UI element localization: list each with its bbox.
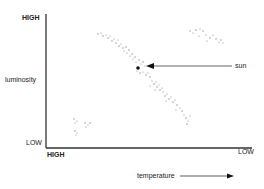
giant-stars — [189, 28, 223, 43]
y-axis-low-label: LOW — [26, 139, 42, 147]
sun-marker — [136, 66, 140, 70]
temperature-arrow-head — [227, 174, 234, 179]
y-axis-label: luminosity — [5, 76, 36, 84]
white-dwarf-stars — [73, 118, 90, 135]
x-axis-label: temperature — [137, 172, 175, 180]
x-axis-low-label: LOW — [238, 148, 254, 156]
sun-label: sun — [235, 62, 246, 70]
x-axis-high-label: HIGH — [47, 151, 65, 159]
y-axis-high-label: HIGH — [22, 14, 40, 22]
hr-diagram — [0, 0, 264, 189]
main-sequence-stars — [97, 32, 190, 124]
sun-arrow-head — [146, 63, 154, 69]
